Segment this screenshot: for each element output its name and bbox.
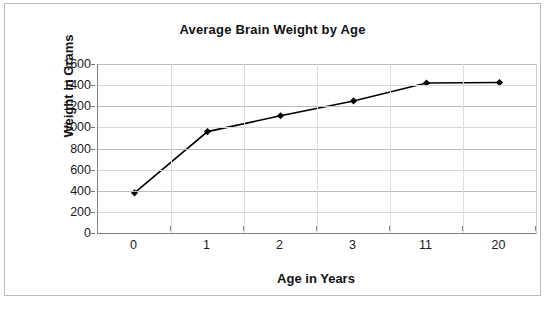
x-axis-title: Age in Years <box>97 271 535 286</box>
gridline-x <box>463 64 464 233</box>
data-point-marker <box>350 97 357 104</box>
x-axis-tick-mark <box>170 226 171 231</box>
y-axis-tick-mark <box>91 233 95 234</box>
y-axis-tick-mark <box>91 191 95 192</box>
gridline-x <box>244 64 245 233</box>
x-axis-tick-mark <box>462 226 463 231</box>
x-axis-tick-label: 2 <box>250 238 310 252</box>
y-axis-tick-label: 1200 <box>51 99 91 113</box>
y-axis-tick-mark <box>91 127 95 128</box>
y-axis-tick-mark <box>91 85 95 86</box>
x-axis-tick-label: 1 <box>177 238 237 252</box>
y-axis-tick-mark <box>91 212 95 213</box>
gridline-x <box>171 64 172 233</box>
chart-title: Average Brain Weight by Age <box>5 22 540 37</box>
x-axis-tick-mark <box>389 226 390 231</box>
y-axis-tick-label: 1000 <box>51 120 91 134</box>
gridline-x <box>390 64 391 233</box>
x-axis-tick-label: 3 <box>323 238 383 252</box>
chart-frame: Average Brain Weight by Age Weight in Gr… <box>4 3 541 296</box>
y-axis-tick-label: 600 <box>51 163 91 177</box>
x-axis-tick-label: 0 <box>104 238 164 252</box>
y-axis-tick-label: 800 <box>51 142 91 156</box>
y-axis-tick-label: 1600 <box>51 57 91 71</box>
x-axis-tick-mark <box>243 226 244 231</box>
x-axis-tick-mark <box>316 226 317 231</box>
gridline-x <box>317 64 318 233</box>
y-axis-tick-label: 400 <box>51 184 91 198</box>
x-axis-tick-label: 20 <box>469 238 529 252</box>
x-axis-tick-labels: 01231120 <box>97 238 535 256</box>
y-axis-tick-labels: 16001400120010008006004002000 <box>45 64 91 233</box>
y-axis-tick-mark <box>91 149 95 150</box>
plot-area <box>97 64 537 234</box>
x-axis-tick-mark <box>535 226 536 231</box>
y-axis-tick-mark <box>91 170 95 171</box>
x-axis-tick-mark <box>97 226 98 231</box>
y-axis-tick-label: 0 <box>51 226 91 240</box>
y-axis-tick-mark <box>91 64 95 65</box>
y-axis-tick-label: 200 <box>51 205 91 219</box>
y-axis-tick-label: 1400 <box>51 78 91 92</box>
x-axis-tick-label: 11 <box>396 238 456 252</box>
data-point-marker <box>277 112 284 119</box>
y-axis-tick-mark <box>91 106 95 107</box>
